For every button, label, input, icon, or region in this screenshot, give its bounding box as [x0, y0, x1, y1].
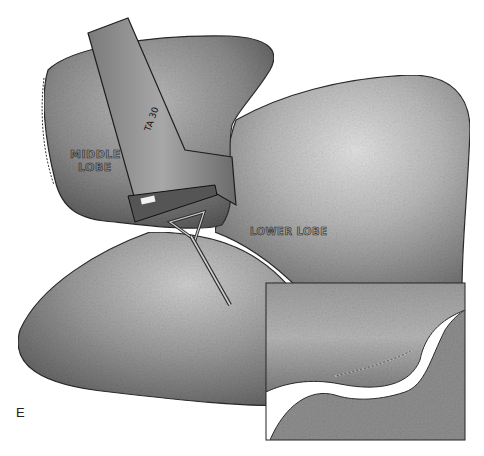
surgical-illustration: MIDDLE LOBE LOWER LOBE TA 30 E	[0, 0, 484, 456]
lower-lobe-base	[18, 232, 300, 406]
lower-lobe-label: LOWER LOBE	[250, 226, 328, 237]
middle-lobe-label-2: LOBE	[78, 161, 112, 174]
inset-closeup	[266, 283, 465, 440]
panel-letter: E	[16, 405, 25, 420]
illustration-canvas: MIDDLE LOBE LOWER LOBE TA 30	[0, 0, 484, 456]
middle-lobe-label-1: MIDDLE	[70, 148, 121, 161]
